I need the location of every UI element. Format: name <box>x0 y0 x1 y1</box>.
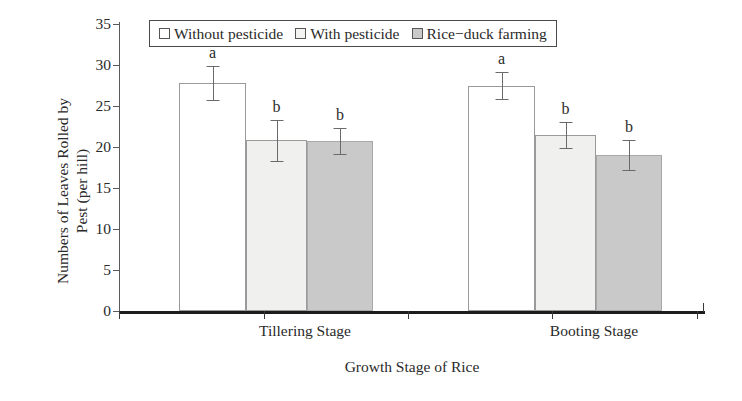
error-bar-cap-upper <box>559 122 572 123</box>
error-bar-cap-upper <box>623 140 636 141</box>
error-bar-cap-lower <box>270 161 283 162</box>
x-category-label: Tillering Stage <box>259 322 351 340</box>
error-bar <box>340 128 341 154</box>
y-tick-mark <box>113 188 120 189</box>
bar-chart-figure: Numbers of Leaves Rolled by Pest (per hi… <box>0 0 742 401</box>
legend: Without pesticide With pesticide Rice−du… <box>149 20 557 47</box>
y-tick-label: 25 <box>96 97 112 115</box>
legend-swatch-rice-duck-farming <box>412 28 423 39</box>
y-tick-label: 5 <box>103 261 111 279</box>
x-axis-title: Growth Stage of Rice <box>119 358 705 376</box>
bar <box>468 86 535 312</box>
bar <box>596 155 662 311</box>
x-axis-end-tick <box>703 303 704 312</box>
x-axis-line <box>119 311 705 314</box>
x-tick-mark <box>119 311 120 319</box>
significance-letter: b <box>562 100 570 118</box>
y-tick-label: 30 <box>96 56 112 74</box>
legend-item-rice-duck-farming: Rice−duck farming <box>412 25 547 43</box>
bar <box>246 140 307 311</box>
legend-swatch-without-pesticide <box>159 28 170 39</box>
y-tick-mark <box>113 106 120 107</box>
significance-letter: b <box>336 106 344 124</box>
error-bar-cap-lower <box>559 148 572 149</box>
bar <box>307 141 373 311</box>
y-axis-title: Numbers of Leaves Rolled by Pest (per hi… <box>53 41 91 341</box>
legend-swatch-with-pesticide <box>295 28 306 39</box>
legend-label-without-pesticide: Without pesticide <box>174 25 283 43</box>
significance-letter: b <box>625 118 633 136</box>
y-tick-mark <box>113 270 120 271</box>
error-bar-cap-lower <box>495 99 508 100</box>
legend-label-rice-duck-farming: Rice−duck farming <box>427 25 547 43</box>
error-bar-cap-upper <box>270 120 283 121</box>
x-category-label: Booting Stage <box>550 322 638 340</box>
error-bar <box>277 120 278 161</box>
significance-letter: b <box>273 98 281 116</box>
y-tick-label: 20 <box>96 138 112 156</box>
error-bar <box>566 122 567 148</box>
error-bar-cap-upper <box>334 128 347 129</box>
y-tick-label: 15 <box>96 179 112 197</box>
bar <box>179 83 246 311</box>
error-bar <box>213 66 214 100</box>
error-bar <box>502 72 503 98</box>
y-tick-mark <box>113 65 120 66</box>
y-tick-mark <box>113 229 120 230</box>
x-tick-mark <box>264 311 265 319</box>
y-axis-title-line1: Numbers of Leaves Rolled by <box>54 98 71 284</box>
y-tick-mark <box>113 24 120 25</box>
error-bar-cap-lower <box>206 100 219 101</box>
error-bar-cap-lower <box>623 170 636 171</box>
x-tick-mark <box>408 311 409 319</box>
error-bar-cap-upper <box>206 66 219 67</box>
significance-letter: a <box>498 50 505 68</box>
y-tick-label: 10 <box>96 220 112 238</box>
legend-item-with-pesticide: With pesticide <box>295 25 399 43</box>
bar <box>535 135 596 311</box>
y-axis-title-line2: Pest (per hill) <box>72 41 91 341</box>
y-tick-mark <box>113 147 120 148</box>
y-tick-label: 35 <box>96 15 112 33</box>
plot-area: 05101520253035 Tillering StageBooting St… <box>119 22 705 313</box>
error-bar <box>629 140 630 170</box>
y-tick-label: 0 <box>103 302 111 320</box>
error-bar-cap-lower <box>334 154 347 155</box>
x-tick-mark <box>697 311 698 319</box>
legend-item-without-pesticide: Without pesticide <box>159 25 283 43</box>
x-tick-mark <box>552 311 553 319</box>
error-bar-cap-upper <box>495 72 508 73</box>
legend-label-with-pesticide: With pesticide <box>310 25 399 43</box>
